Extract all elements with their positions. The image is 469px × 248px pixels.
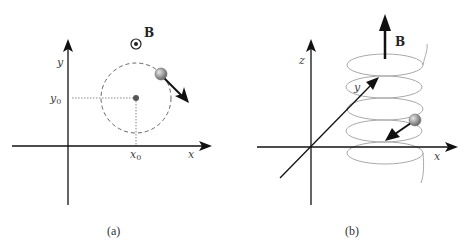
y-axis-label-b: y	[353, 81, 361, 94]
figure: y x y0 x0 B (a) z y x B (b)	[0, 0, 469, 248]
x-axis-label-a: x	[188, 148, 195, 161]
b-field-label-b: B	[395, 35, 405, 49]
panel-b	[257, 14, 458, 205]
b-field-arrow-icon	[379, 14, 391, 59]
z-axis-label-b: z	[298, 54, 305, 67]
axes-3d	[257, 39, 458, 205]
b-field-label-a: B	[144, 26, 154, 40]
y-axis-label-a: y	[56, 56, 64, 69]
caption-a: (a)	[107, 224, 120, 238]
y0-sub: 0	[56, 97, 61, 106]
velocity-arrow-icon	[385, 128, 400, 141]
x0-label: x0	[130, 148, 141, 162]
caption-b: (b)	[345, 224, 359, 238]
orbit-center-dot	[133, 95, 139, 101]
b-field-out-of-page-icon	[131, 39, 141, 49]
axes-2d	[12, 39, 212, 205]
x0-sub: 0	[136, 153, 141, 162]
panel-a	[12, 39, 212, 205]
particle-a	[155, 68, 189, 103]
helix-trajectory	[346, 44, 427, 183]
x-axis-label-b: x	[434, 150, 441, 163]
velocity-arrow-icon	[175, 87, 189, 103]
y0-label: y0	[49, 92, 61, 106]
